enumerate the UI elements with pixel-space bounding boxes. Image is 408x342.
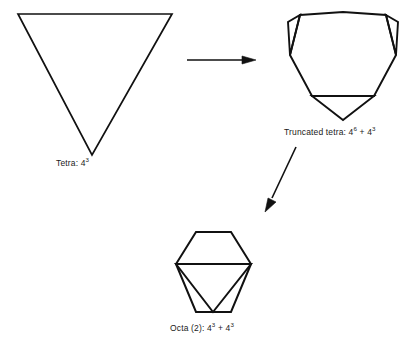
truncated-tetra-corner-upper-right [386,15,398,55]
arrow-horizontal [187,56,256,64]
shape-tetrahedron [18,14,172,155]
diagram-canvas [0,0,408,342]
shape-octahedron [176,232,251,312]
arrow-horizontal-head [242,56,256,64]
caption-truncated-base2: + 4 [357,127,372,137]
caption-octahedron: Octa (2): 43 + 43 [170,324,234,333]
arrow-diagonal-head [265,198,276,212]
caption-truncated-exponent2: 3 [372,125,376,132]
truncated-tetra-corner-bottom [312,96,374,120]
figure-root: Tetra: 43 Truncated tetra: 46 + 43 Octa … [0,0,408,342]
arrow-diagonal-shaft [272,147,296,198]
shape-truncated-tetrahedron [288,12,398,120]
octahedron-hexagon-outline [176,232,251,312]
caption-tetrahedron-exponent: 3 [86,156,90,163]
truncated-tetra-body [290,12,396,96]
arrow-diagonal [265,147,296,212]
octahedron-inner-triangle [176,264,251,312]
caption-tetrahedron: Tetra: 43 [56,159,89,168]
caption-octahedron-exponent2: 3 [230,321,234,328]
caption-tetrahedron-base: Tetra: 4 [56,158,86,168]
caption-octahedron-base: Octa (2): 4 [170,323,212,333]
caption-truncated-tetrahedron: Truncated tetra: 46 + 43 [284,128,376,137]
caption-octahedron-base2: + 4 [215,323,230,333]
truncated-tetra-corner-upper-left [288,15,300,55]
tetrahedron-outline [18,14,172,155]
caption-truncated-base: Truncated tetra: 4 [284,127,353,137]
